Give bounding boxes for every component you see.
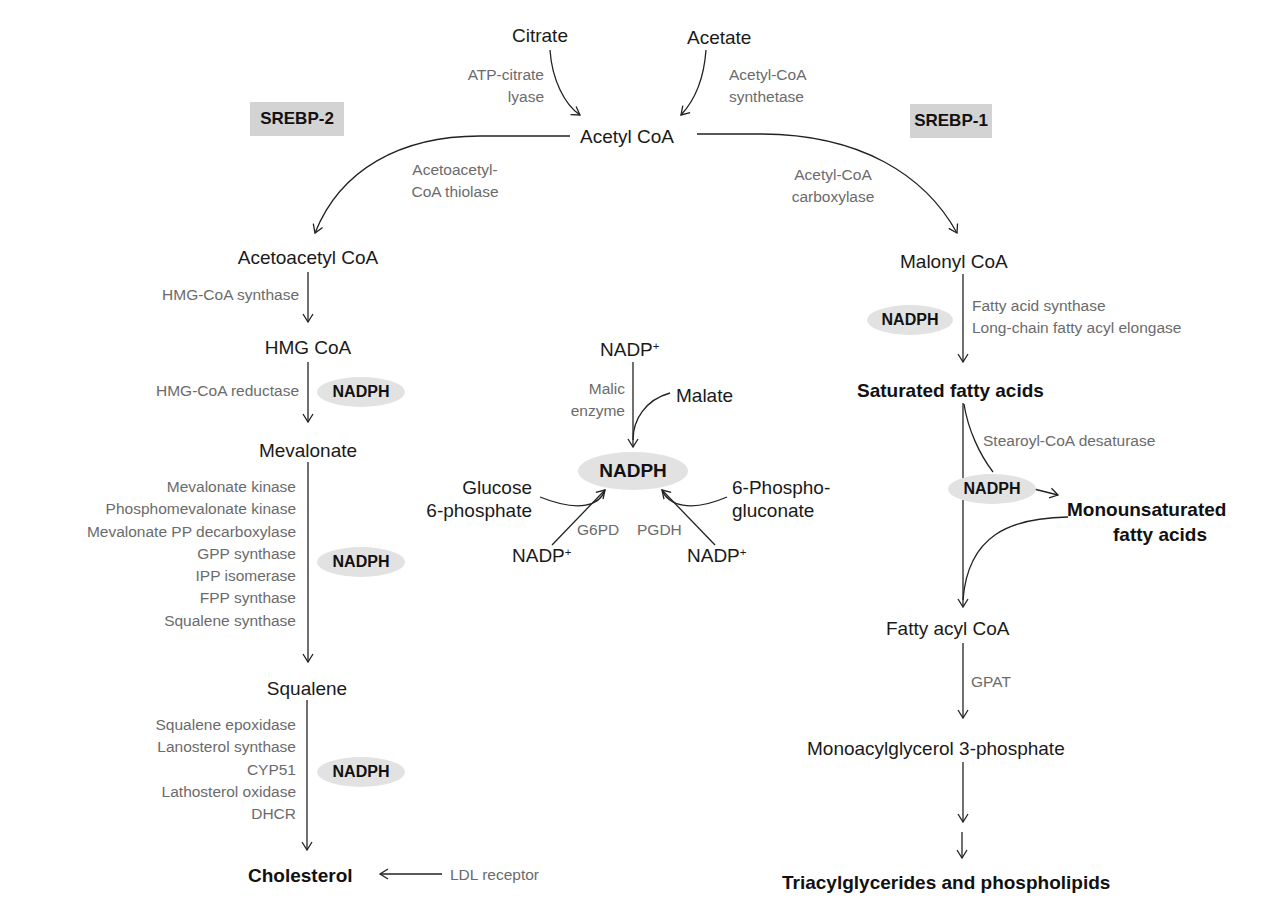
acetyl-coa-synthetase-label-2: synthetase (729, 89, 804, 105)
enzyme-label: DHCR (156, 803, 296, 825)
nadp-plus-right-node: NADP+ (687, 546, 746, 565)
enzyme-label: IPP isomerase (87, 565, 296, 587)
enzyme-label: Lathosterol oxidase (156, 781, 296, 803)
nadph-cofactor-mevalonate: NADPH (317, 547, 405, 577)
nadph-cofactor-fas: NADPH (867, 305, 953, 335)
malate-node: Malate (676, 386, 733, 405)
pgdh-label: PGDH (637, 522, 682, 538)
monounsaturated-fatty-acids-node-2: fatty acids (1067, 525, 1253, 544)
thiolase-label-2: CoA thiolase (380, 184, 530, 200)
squalene-node: Squalene (207, 679, 407, 698)
glucose-6-phosphate-node-1: Glucose (462, 478, 532, 497)
ldl-receptor-label: LDL receptor (450, 867, 539, 883)
thiolase-label-1: Acetoacetyl- (380, 162, 530, 178)
srebp2-label: SREBP-2 (250, 102, 344, 136)
citrate-node: Citrate (512, 26, 568, 45)
glucose-6-phosphate-node-2: 6-phosphate (426, 501, 532, 520)
enzyme-label: Mevalonate PP decarboxylase (87, 521, 296, 543)
mevalonate-enzyme-list: Mevalonate kinase Phosphomevalonate kina… (87, 476, 296, 632)
malonyl-coa-node: Malonyl CoA (900, 252, 1008, 271)
acetyl-coa-carboxylase-label-2: carboxylase (768, 189, 898, 205)
acetyl-coa-synthetase-label-1: Acetyl-CoA (729, 67, 807, 83)
atp-citrate-lyase-label-1: ATP-citrate (468, 67, 544, 83)
enzyme-label: Mevalonate kinase (87, 476, 296, 498)
triacylglycerides-phospholipids-node: Triacylglycerides and phospholipids (782, 873, 1110, 892)
6-phosphogluconate-node-2: gluconate (732, 501, 814, 520)
enzyme-label: Phosphomevalonate kinase (87, 498, 296, 520)
nadph-cofactor-squalene: NADPH (317, 757, 405, 787)
nadph-cofactor-hmg-reductase: NADPH (317, 377, 405, 407)
acetoacetyl-coa-node: Acetoacetyl CoA (208, 248, 408, 267)
squalene-enzyme-list: Squalene epoxidase Lanosterol synthase C… (156, 714, 296, 825)
hmg-coa-reductase-label: HMG-CoA reductase (156, 383, 299, 399)
hmg-coa-node: HMG CoA (208, 338, 408, 357)
lipid-synthesis-pathway-diagram: SREBP-2 SREBP-1 Citrate Acetate ATP-citr… (0, 0, 1272, 915)
6-phosphogluconate-node-1: 6-Phospho- (732, 478, 830, 497)
stearoyl-coa-desaturase-label: Stearoyl-CoA desaturase (983, 433, 1155, 449)
nadp-plus-top-node: NADP+ (600, 340, 659, 359)
acetate-node: Acetate (687, 28, 751, 47)
saturated-fatty-acids-node: Saturated fatty acids (857, 381, 1044, 400)
malic-enzyme-label-1: Malic (589, 381, 625, 397)
monoacylglycerol-3-phosphate-node: Monoacylglycerol 3-phosphate (807, 739, 1065, 758)
g6pd-label: G6PD (577, 522, 619, 538)
enzyme-label: FPP synthase (87, 587, 296, 609)
fatty-acyl-coa-node: Fatty acyl CoA (886, 619, 1010, 638)
acetyl-coa-node: Acetyl CoA (580, 127, 674, 146)
nadp-plus-left-node: NADP+ (512, 546, 571, 565)
enzyme-label: GPP synthase (87, 543, 296, 565)
fatty-acyl-elongase-label: Long-chain fatty acyl elongase (972, 320, 1181, 336)
fatty-acid-synthase-label: Fatty acid synthase (972, 298, 1106, 314)
enzyme-label: CYP51 (156, 759, 296, 781)
gpat-label: GPAT (971, 674, 1011, 690)
hmg-coa-synthase-label: HMG-CoA synthase (162, 287, 299, 303)
monounsaturated-fatty-acids-node-1: Monounsaturated (1067, 500, 1226, 519)
nadph-central-pool: NADPH (578, 452, 688, 490)
enzyme-label: Squalene epoxidase (156, 714, 296, 736)
cholesterol-node: Cholesterol (248, 866, 353, 885)
srebp1-label: SREBP-1 (910, 104, 992, 138)
atp-citrate-lyase-label-2: lyase (508, 89, 544, 105)
acetyl-coa-carboxylase-label-1: Acetyl-CoA (768, 167, 898, 183)
malic-enzyme-label-2: enzyme (571, 403, 625, 419)
enzyme-label: Lanosterol synthase (156, 736, 296, 758)
enzyme-label: Squalene synthase (87, 610, 296, 632)
nadph-cofactor-scd: NADPH (948, 474, 1036, 504)
mevalonate-node: Mevalonate (208, 441, 408, 460)
